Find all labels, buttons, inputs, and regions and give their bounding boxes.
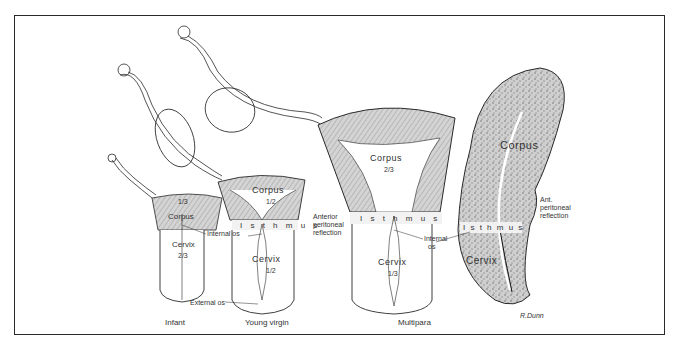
internal-os-label-2: Internal bbox=[424, 235, 447, 243]
ant-peritoneal-line1: Ant. bbox=[540, 196, 552, 204]
infant-corpus-label: Corpus bbox=[168, 213, 194, 221]
infant-cervix-fraction: 2/3 bbox=[178, 252, 188, 259]
internal-os-label: Internal os bbox=[207, 230, 240, 238]
young-virgin-uterus bbox=[218, 175, 305, 314]
young-virgin-corpus-label: Corpus bbox=[252, 186, 284, 195]
anterior-peritoneal-line1: Anterior bbox=[313, 213, 338, 221]
infant-corpus-fraction: 1/3 bbox=[178, 198, 188, 205]
section-cervix-label: Cervix bbox=[466, 256, 497, 266]
ant-peritoneal-line3: reflection bbox=[540, 212, 568, 220]
young-virgin-isthmus-label: I s t h m u s bbox=[240, 222, 320, 230]
internal-os-label-2b: os bbox=[428, 243, 435, 251]
multipara-cervix-label: Cervix bbox=[378, 258, 407, 267]
young-virgin-corpus-fraction: 1/2 bbox=[266, 198, 276, 205]
ant-peritoneal-line2: peritoneal bbox=[540, 204, 571, 212]
sagittal-section bbox=[458, 68, 564, 304]
young-virgin-cervix-fraction: 1/2 bbox=[266, 267, 276, 274]
section-corpus-label: Corpus bbox=[500, 140, 538, 151]
anterior-peritoneal-line2: peritoneal bbox=[313, 221, 344, 229]
young-virgin-cervix-label: Cervix bbox=[252, 255, 281, 264]
caption-infant: Infant bbox=[165, 318, 185, 327]
uterus-illustration bbox=[0, 0, 679, 348]
anterior-peritoneal-line3: reflection bbox=[313, 229, 341, 237]
tubes-and-ovaries bbox=[108, 26, 322, 198]
multipara-uterus bbox=[318, 108, 455, 314]
section-isthmus-label: I s t h m u s bbox=[463, 224, 524, 232]
multipara-cervix-fraction: 1/3 bbox=[388, 270, 398, 277]
multipara-corpus-fraction: 2/3 bbox=[384, 166, 394, 173]
multipara-corpus-label: Corpus bbox=[370, 154, 402, 163]
caption-multipara: Multipara bbox=[398, 318, 431, 327]
artist-signature: R.Dunn bbox=[520, 312, 544, 320]
multipara-isthmus-label: I s t h m u s bbox=[360, 215, 440, 223]
caption-young-virgin: Young virgin bbox=[245, 318, 289, 327]
external-os-label: External os bbox=[190, 299, 225, 307]
infant-cervix-label: Cervix bbox=[172, 241, 195, 249]
